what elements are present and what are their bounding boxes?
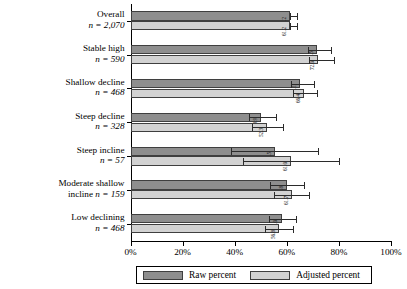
chart-legend: Raw percentAdjusted percent xyxy=(136,266,372,284)
x-tick-label: 0% xyxy=(107,247,155,257)
error-bar-cap-low xyxy=(265,226,266,233)
error-bar-cap-low xyxy=(249,114,250,121)
error-bar-cap-high xyxy=(304,182,305,189)
error-bar-cap-low xyxy=(274,192,275,199)
bar-value-label: 56.8 xyxy=(270,229,276,238)
category-label-text: Overall xyxy=(2,9,125,19)
bar-chart: 0%20%40%60%80%100%Overalln = 2,070Stable… xyxy=(0,0,407,289)
error-bar-cap-high xyxy=(297,13,298,20)
legend-label-adjusted: Adjusted percent xyxy=(296,270,360,280)
category-label: Shallow declinen = 468 xyxy=(2,77,125,98)
error-bar-cap-low xyxy=(252,124,253,131)
error-bar-cap-high xyxy=(339,158,340,165)
x-tick xyxy=(131,242,132,246)
error-bar-cap-high xyxy=(293,226,294,233)
x-tick xyxy=(235,242,236,246)
category-label-text: Moderate shallow xyxy=(2,178,125,188)
error-bar-cap-high xyxy=(314,81,315,88)
bar-value-label: 61.0 xyxy=(282,162,288,171)
category-label-n: incline n = 159 xyxy=(2,189,125,199)
category-label: Moderate shallowincline n = 159 xyxy=(2,178,125,199)
category-label: Overalln = 2,070 xyxy=(2,9,125,30)
error-bar-cap-high xyxy=(296,216,297,223)
error-bar-cap-high xyxy=(309,192,310,199)
bar-value-label: 52.3 xyxy=(258,128,264,137)
x-tick xyxy=(183,242,184,246)
category-label: Steep inclinen = 57 xyxy=(2,145,125,166)
x-tick-label: 60% xyxy=(263,247,311,257)
error-bar-line xyxy=(243,161,339,162)
category-label-n: n = 57 xyxy=(2,155,125,165)
error-bar-line xyxy=(252,127,283,128)
error-bar-cap-low xyxy=(231,148,232,155)
bar-adjusted xyxy=(131,224,279,233)
bar-raw xyxy=(131,214,282,223)
legend-swatch-raw xyxy=(143,271,183,280)
category-label-text: Low declining xyxy=(2,212,125,222)
error-bar-line xyxy=(231,151,318,152)
bar-raw xyxy=(131,113,261,122)
error-bar-cap-high xyxy=(331,47,332,54)
category-label-n: n = 2,070 xyxy=(2,20,125,30)
legend-swatch-adjusted xyxy=(250,271,290,280)
category-label-text: Steep incline xyxy=(2,145,125,155)
category-label-n: n = 328 xyxy=(2,121,125,131)
category-label: Steep declinen = 328 xyxy=(2,111,125,132)
category-label: Stable highn = 590 xyxy=(2,43,125,64)
error-bar-cap-low xyxy=(243,158,244,165)
category-label-text: Shallow decline xyxy=(2,77,125,87)
error-bar-line xyxy=(290,16,297,17)
bar-value-label: 61.7 xyxy=(283,196,289,205)
bar-raw xyxy=(131,79,300,88)
x-tick xyxy=(339,242,340,246)
x-tick-label: 20% xyxy=(159,247,207,257)
category-label-text: Stable high xyxy=(2,43,125,53)
error-bar-line xyxy=(290,26,297,27)
bar-raw xyxy=(131,180,287,189)
legend-label-raw: Raw percent xyxy=(189,270,236,280)
error-bar-cap-high xyxy=(283,124,284,131)
bar-value-label: 66.4 xyxy=(295,94,301,103)
bar-adjusted xyxy=(131,89,304,98)
category-label-n: n = 590 xyxy=(2,54,125,64)
bar-adjusted xyxy=(131,55,319,64)
bar-value-label: 61.2 xyxy=(281,27,287,36)
bar-adjusted xyxy=(131,21,290,30)
error-bar-cap-high xyxy=(318,148,319,155)
bar-raw xyxy=(131,45,317,54)
error-bar-line xyxy=(270,185,304,186)
error-bar-cap-low xyxy=(290,13,291,20)
category-label-n: n = 468 xyxy=(2,87,125,97)
x-tick-label: 40% xyxy=(211,247,259,257)
category-label-text: Steep decline xyxy=(2,111,125,121)
bar-adjusted xyxy=(131,123,268,132)
x-tick xyxy=(391,242,392,246)
category-label-n: n = 468 xyxy=(2,223,125,233)
x-axis-line xyxy=(131,241,393,242)
error-bar-cap-low xyxy=(269,216,270,223)
error-bar-cap-low xyxy=(290,23,291,30)
category-label: Low decliningn = 468 xyxy=(2,212,125,233)
error-bar-cap-high xyxy=(276,114,277,121)
error-bar-line xyxy=(274,195,309,196)
bar-value-label: 72.0 xyxy=(309,61,315,70)
error-bar-line xyxy=(265,229,294,230)
error-bar-cap-high xyxy=(297,23,298,30)
error-bar-cap-high xyxy=(317,90,318,97)
bar-adjusted xyxy=(131,190,293,199)
error-bar-cap-low xyxy=(270,182,271,189)
bar-raw xyxy=(131,11,290,20)
x-tick-label: 100% xyxy=(367,247,407,257)
x-tick-label: 80% xyxy=(315,247,363,257)
error-bar-cap-high xyxy=(334,57,335,64)
x-tick xyxy=(287,242,288,246)
